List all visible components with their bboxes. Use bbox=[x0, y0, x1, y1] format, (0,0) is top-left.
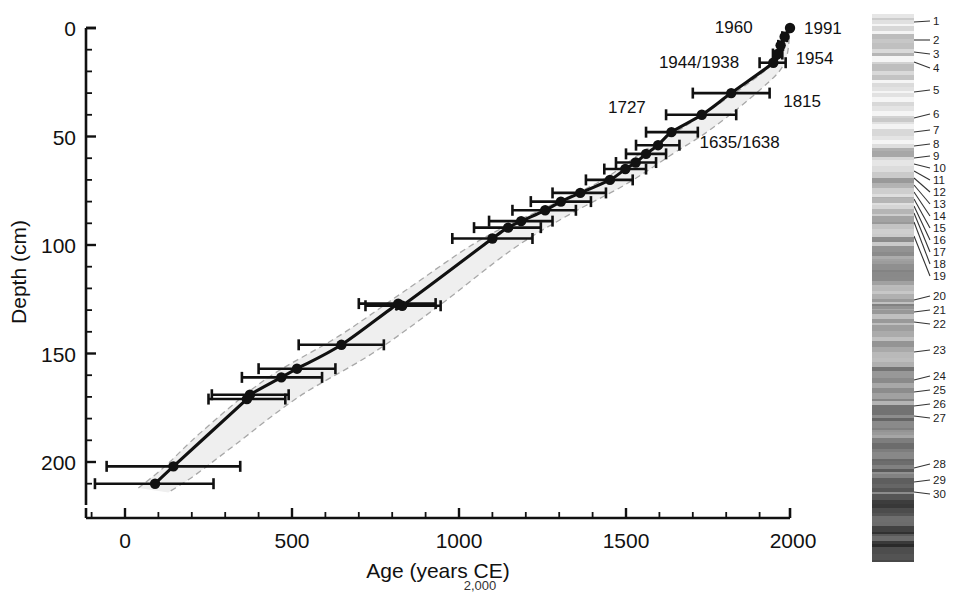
core-layer-number: 28 bbox=[933, 458, 946, 470]
core-layer-number: 10 bbox=[933, 162, 946, 174]
y-tick-label: 150 bbox=[41, 343, 76, 366]
core-layer-number: 7 bbox=[933, 124, 939, 136]
core-layer-number: 26 bbox=[933, 398, 946, 410]
data-point bbox=[292, 363, 302, 373]
core-layer-number: 13 bbox=[933, 198, 946, 210]
core-layer-number: 20 bbox=[933, 290, 946, 302]
data-point bbox=[630, 157, 640, 167]
core-layer-number: 5 bbox=[933, 84, 939, 96]
core-layer-number: 22 bbox=[933, 318, 946, 330]
core-layer-number: 6 bbox=[933, 108, 939, 120]
data-point bbox=[726, 88, 736, 98]
core-layer-number: 17 bbox=[933, 246, 946, 258]
core-layer-number: 29 bbox=[933, 474, 946, 486]
x-tick-label: 0 bbox=[119, 529, 131, 552]
data-point bbox=[150, 479, 160, 489]
core-layer-number: 11 bbox=[933, 174, 945, 186]
core-layer-number: 1 bbox=[933, 15, 939, 27]
core-layer-number: 2 bbox=[933, 34, 939, 46]
x-tick-label: 1000 bbox=[436, 529, 483, 552]
data-point bbox=[697, 110, 707, 120]
sediment-core-photograph bbox=[872, 14, 914, 562]
caption-text: 2,000 bbox=[464, 578, 497, 593]
data-point bbox=[540, 205, 550, 215]
annotation-label: 1960 bbox=[715, 18, 753, 37]
y-axis-title: Depth (cm) bbox=[7, 220, 30, 324]
data-point bbox=[393, 298, 403, 308]
core-layer-number: 30 bbox=[933, 488, 946, 500]
annotation-label: 1954 bbox=[796, 49, 834, 68]
data-point bbox=[503, 222, 513, 232]
annotation-label: 1635/1638 bbox=[699, 133, 779, 152]
core-layer-number: 19 bbox=[933, 270, 946, 282]
data-point bbox=[768, 58, 778, 68]
annotation-label: 1727 bbox=[608, 98, 646, 117]
figure-caption: 2,000 bbox=[0, 578, 960, 594]
data-point bbox=[575, 188, 585, 198]
core-layer-number: 24 bbox=[933, 370, 946, 382]
core-layer-number: 8 bbox=[933, 138, 939, 150]
annotation-label: 1815 bbox=[783, 92, 821, 111]
figure-root: 0500100015002000 050100150200 Age (years… bbox=[0, 0, 960, 594]
core-layer-number: 23 bbox=[933, 344, 946, 356]
core-layer-number: 27 bbox=[933, 412, 946, 424]
data-point bbox=[487, 233, 497, 243]
data-point bbox=[242, 394, 252, 404]
annotation-label: 1991 bbox=[804, 19, 842, 38]
core-layer-number: 4 bbox=[933, 62, 940, 74]
core-lamination bbox=[872, 560, 914, 562]
data-point bbox=[785, 23, 795, 33]
core-layer-number: 16 bbox=[933, 234, 946, 246]
data-point bbox=[276, 372, 286, 382]
core-layer-number: 18 bbox=[933, 258, 946, 270]
core-layer-number: 12 bbox=[933, 186, 946, 198]
core-layer-number: 3 bbox=[933, 48, 939, 60]
y-tick-label: 200 bbox=[41, 451, 76, 474]
core-layer-number: 21 bbox=[933, 304, 946, 316]
data-point bbox=[516, 216, 526, 226]
data-point bbox=[620, 164, 630, 174]
x-tick-label: 2000 bbox=[770, 529, 817, 552]
data-point bbox=[556, 196, 566, 206]
annotation-label: 1944/1938 bbox=[659, 53, 739, 72]
core-layer-number: 9 bbox=[933, 150, 939, 162]
y-tick-label: 100 bbox=[41, 234, 76, 257]
y-tick-label: 0 bbox=[64, 17, 76, 40]
chart-background bbox=[0, 0, 960, 594]
data-point bbox=[336, 340, 346, 350]
age-depth-chart: 0500100015002000 050100150200 Age (years… bbox=[0, 0, 960, 594]
data-point bbox=[666, 127, 676, 137]
data-point bbox=[168, 461, 178, 471]
data-point bbox=[653, 140, 663, 150]
core-layer-number: 25 bbox=[933, 384, 946, 396]
core-layer-number: 14 bbox=[933, 210, 946, 222]
core-layer-number: 15 bbox=[933, 222, 946, 234]
data-point bbox=[641, 149, 651, 159]
y-tick-label: 50 bbox=[53, 126, 76, 149]
data-point bbox=[605, 175, 615, 185]
x-tick-label: 1500 bbox=[603, 529, 650, 552]
x-tick-label: 500 bbox=[274, 529, 309, 552]
